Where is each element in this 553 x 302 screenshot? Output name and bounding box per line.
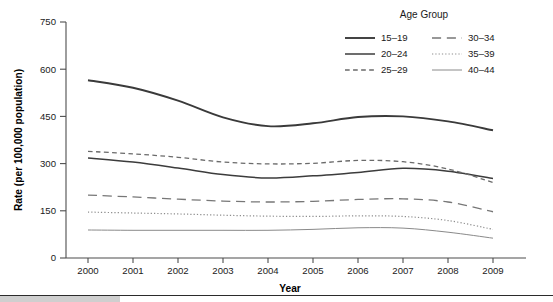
- series-line-35-39: [88, 212, 493, 229]
- y-axis-tick-label: 150: [40, 205, 56, 216]
- legend-item-30-34[interactable]: 30–34: [432, 32, 495, 43]
- x-axis-tick-label: 2003: [212, 265, 233, 276]
- x-axis-tick-label: 2004: [257, 265, 279, 276]
- legend-label: 20–24: [381, 48, 408, 59]
- x-axis-tick-label: 2006: [347, 265, 368, 276]
- x-axis-tick-label: 2001: [122, 265, 143, 276]
- legend-label: 25–29: [381, 64, 408, 75]
- y-axis-tick-label: 750: [40, 16, 56, 27]
- legend-label: 35–39: [468, 48, 495, 59]
- x-axis-tick-label: 2002: [167, 265, 188, 276]
- legend-label: 40–44: [468, 64, 495, 75]
- legend-item-25-29[interactable]: 25–29: [345, 64, 408, 75]
- axis-group: 0150300450600750200020012002200320042005…: [40, 16, 526, 276]
- y-axis-tick-label: 600: [40, 64, 56, 75]
- y-axis-title: Rate (per 100,000 population): [13, 69, 24, 211]
- legend-item-40-44[interactable]: 40–44: [432, 64, 495, 75]
- y-axis-tick-label: 300: [40, 158, 56, 169]
- series-line-40-44: [88, 228, 493, 239]
- x-axis-tick-label: 2000: [77, 265, 98, 276]
- x-axis-tick-label: 2007: [392, 265, 413, 276]
- x-axis-tick-label: 2009: [482, 265, 503, 276]
- legend-label: 15–19: [381, 32, 408, 43]
- line-chart: 0150300450600750200020012002200320042005…: [0, 0, 553, 302]
- x-axis-tick-label: 2008: [437, 265, 458, 276]
- legend-group: Age Group15–1930–3420–2435–3925–2940–44: [345, 9, 495, 75]
- series-line-15-19: [88, 80, 493, 130]
- figure-container: 0150300450600750200020012002200320042005…: [0, 0, 553, 302]
- series-group: [88, 80, 493, 238]
- legend-item-20-24[interactable]: 20–24: [345, 48, 408, 59]
- legend-title: Age Group: [400, 9, 449, 20]
- series-line-30-34: [88, 195, 493, 212]
- footer-block: [0, 296, 120, 302]
- legend-item-35-39[interactable]: 35–39: [432, 48, 495, 59]
- x-axis-tick-label: 2005: [302, 265, 323, 276]
- x-axis-title: Year: [279, 283, 301, 294]
- y-axis-tick-label: 450: [40, 111, 56, 122]
- y-axis-tick-label: 0: [51, 252, 56, 263]
- legend-item-15-19[interactable]: 15–19: [345, 32, 408, 43]
- series-line-20-24: [88, 158, 493, 178]
- legend-label: 30–34: [468, 32, 495, 43]
